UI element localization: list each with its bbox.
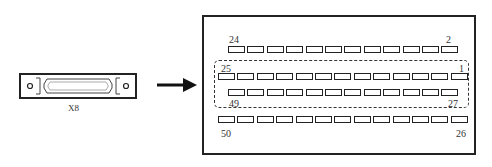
pin-slot [354, 116, 371, 123]
pin-slot [451, 116, 468, 123]
pin-slot [422, 46, 439, 53]
pin-slot [373, 116, 390, 123]
pin-label-2: 2 [446, 35, 451, 45]
pin-slot [334, 116, 351, 123]
pin-slot [441, 46, 458, 53]
pin-label-25: 25 [221, 64, 231, 74]
pin-slot [431, 73, 448, 80]
pin-slot [354, 73, 371, 80]
pin-label-49: 49 [229, 99, 239, 109]
pin-slot [393, 73, 410, 80]
pin-slot [412, 116, 429, 123]
pin-slot [441, 89, 458, 96]
pinout-diagram: 24 2 25 1 49 27 50 26 [202, 15, 476, 155]
pin-slot [334, 73, 351, 80]
pin-label-27: 27 [448, 99, 458, 109]
pin-slot [267, 89, 284, 96]
connector-icon [19, 73, 137, 99]
pin-slot [364, 46, 381, 53]
pin-slot [403, 89, 420, 96]
pin-slot [247, 46, 264, 53]
pin-slot [403, 46, 420, 53]
arrow-right-icon [157, 78, 197, 92]
pin-slot [373, 73, 390, 80]
pin-slot [412, 73, 429, 80]
pin-slot [296, 73, 313, 80]
pin-slot [315, 116, 332, 123]
pin-slot [422, 89, 439, 96]
pin-slot [228, 46, 245, 53]
pin-label-24: 24 [229, 35, 239, 45]
pin-slot [344, 89, 361, 96]
pin-label-50: 50 [221, 129, 231, 139]
pin-slot [237, 73, 254, 80]
pin-slot [247, 89, 264, 96]
pin-slot [267, 46, 284, 53]
pin-slot [393, 116, 410, 123]
pin-slot [315, 73, 332, 80]
pin-slot [344, 46, 361, 53]
pin-slot [276, 73, 293, 80]
pin-slot [296, 116, 313, 123]
dashed-group-outline [214, 60, 469, 108]
pin-slot [228, 89, 245, 96]
pin-slot [431, 116, 448, 123]
pin-slot [218, 73, 235, 80]
pin-slot [325, 46, 342, 53]
pin-slot [286, 46, 303, 53]
pin-slot [286, 89, 303, 96]
pin-slot [451, 73, 468, 80]
pin-slot [364, 89, 381, 96]
connector-x8 [19, 73, 137, 99]
pin-slot [276, 116, 293, 123]
pin-slot [257, 73, 274, 80]
pin-label-26: 26 [456, 129, 466, 139]
pin-slot [237, 116, 254, 123]
pin-slot [218, 116, 235, 123]
pin-slot [383, 89, 400, 96]
pin-slot [306, 89, 323, 96]
pin-slot [257, 116, 274, 123]
pin-label-1: 1 [459, 64, 464, 74]
pin-slot [306, 46, 323, 53]
connector-label: X8 [68, 103, 79, 113]
pin-slot [325, 89, 342, 96]
pin-slot [383, 46, 400, 53]
